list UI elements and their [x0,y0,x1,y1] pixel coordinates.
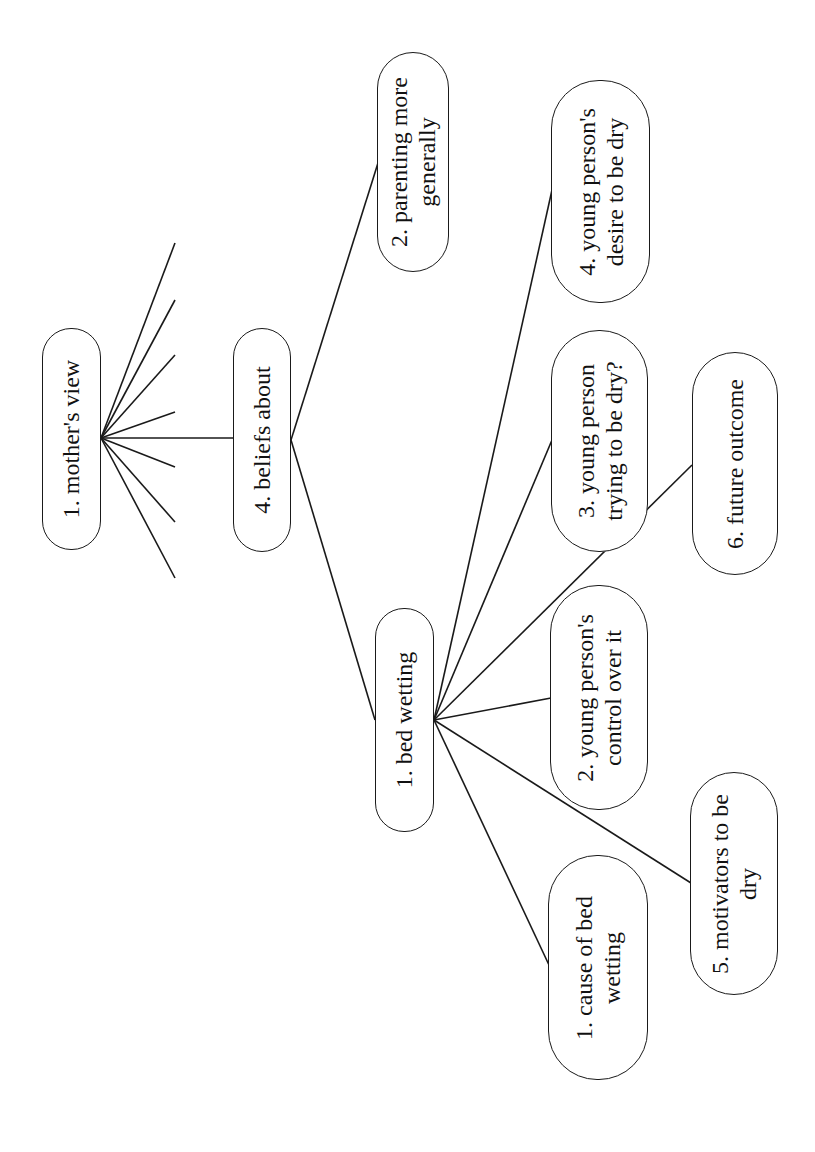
node-young-persons-control: 2. young person's control over it [550,585,648,810]
edge-bedwetting-trying [434,440,552,720]
node-label-line-1: 1. cause of bed [570,896,598,1040]
edge-bedwetting-control [434,698,551,720]
edge-beliefs-parenting [291,163,378,440]
node-label-line-1: 5. motivators to be [706,794,734,974]
node-cause-of-bed-wetting: 1. cause of bed wetting [548,855,648,1080]
node-label-line-2: dry [734,868,762,900]
node-label-line-2: control over it [599,630,627,766]
node-label-line-2: wetting [598,932,626,1004]
node-label-line-2: desire to be dry [601,117,629,266]
node-young-persons-desire: 4. young person's desire to be dry [551,80,650,303]
node-mothers-view: 1. mother's view [42,328,101,550]
node-future-outcome: 6. future outcome [692,352,778,575]
node-label-line-1: 4. young person's [573,108,601,276]
root-branch-line [101,300,175,438]
root-branch-line [101,438,175,578]
node-young-person-trying: 3. young person trying to be dry? [551,330,648,552]
node-label: 1. bed wetting [391,652,419,789]
node-label-line-1: 3. young person [572,364,600,518]
node-label: 1. mother's view [58,360,86,518]
edge-beliefs-bedwetting [291,440,375,720]
node-label: 6. future outcome [721,379,749,549]
node-label-line-2: trying to be dry? [600,361,628,520]
node-label-line-1: 2. young person's [571,614,599,782]
node-motivators-to-be-dry: 5. motivators to be dry [690,772,778,995]
node-beliefs-about: 4. beliefs about [233,328,291,552]
edge-bedwetting-desire [434,190,552,720]
root-branch-line [101,438,175,467]
node-label-line-2: generally [413,117,441,206]
node-parenting-more-generally: 2. parenting more generally [377,52,449,272]
mind-map-diagram: 1. mother's view 4. beliefs about 2. par… [0,0,815,1152]
node-bed-wetting: 1. bed wetting [375,608,434,832]
node-label-line-1: 2. parenting more [385,77,413,247]
node-label: 4. beliefs about [248,366,276,513]
root-branch-line [101,243,175,438]
